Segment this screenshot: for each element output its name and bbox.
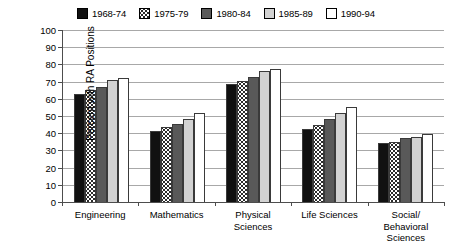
y-tick-label: 0 xyxy=(0,198,56,208)
bar xyxy=(74,94,85,202)
legend-entry-1990-94: 1990-94 xyxy=(326,8,375,19)
legend-swatch-icon xyxy=(201,8,212,19)
legend-label: 1968-74 xyxy=(92,8,126,19)
bar xyxy=(378,143,389,202)
bar xyxy=(107,80,118,202)
y-tick-mark xyxy=(58,168,62,169)
x-tick-mark xyxy=(215,202,216,206)
bar xyxy=(248,77,259,202)
y-tick-label: 90 xyxy=(0,43,56,53)
x-axis-tick-marks xyxy=(62,202,444,206)
legend-entry-1985-89: 1985-89 xyxy=(264,8,313,19)
bar xyxy=(194,113,205,202)
legend-entry-1975-79: 1975-79 xyxy=(139,8,188,19)
bar xyxy=(161,127,172,202)
x-tick-mark xyxy=(368,202,369,206)
bar xyxy=(422,134,433,202)
legend-label: 1980-84 xyxy=(216,8,250,19)
bar-group xyxy=(63,30,139,202)
bar-group xyxy=(215,30,291,202)
legend-label: 1990-94 xyxy=(341,8,375,19)
y-tick-label: 70 xyxy=(0,78,56,88)
legend-entry-1980-84: 1980-84 xyxy=(201,8,250,19)
x-axis-label: Engineering xyxy=(62,209,138,244)
bar xyxy=(172,124,183,202)
bar xyxy=(411,137,422,202)
y-tick-label: 20 xyxy=(0,164,56,174)
x-tick-mark xyxy=(291,202,292,206)
x-axis-label: Social/ Behavioral Sciences xyxy=(368,209,444,244)
y-tick-label: 40 xyxy=(0,129,56,139)
x-axis-label: Physical Sciences xyxy=(215,209,291,244)
bar xyxy=(313,125,324,202)
legend-swatch-icon xyxy=(139,8,150,19)
y-tick-label: 30 xyxy=(0,146,56,156)
bar-group xyxy=(368,30,444,202)
y-tick-mark xyxy=(58,116,62,117)
bar-group xyxy=(292,30,368,202)
bar xyxy=(270,69,281,202)
x-axis-label: Mathematics xyxy=(138,209,214,244)
legend-swatch-icon xyxy=(326,8,337,19)
plot-area xyxy=(62,30,444,202)
y-tick-label: 100 xyxy=(0,26,56,36)
bar xyxy=(150,131,161,202)
bar-groups xyxy=(63,30,444,202)
y-tick-mark xyxy=(58,64,62,65)
legend-label: 1975-79 xyxy=(154,8,188,19)
x-tick-mark xyxy=(444,202,445,206)
bar xyxy=(400,138,411,202)
y-tick-label: 80 xyxy=(0,60,56,70)
x-axis-label: Life Sciences xyxy=(291,209,367,244)
y-tick-mark xyxy=(58,30,62,31)
y-tick-mark xyxy=(58,185,62,186)
x-tick-mark xyxy=(62,202,63,206)
bar xyxy=(259,71,270,202)
bar-group xyxy=(139,30,215,202)
y-tick-mark xyxy=(58,150,62,151)
bar xyxy=(335,113,346,202)
y-tick-mark xyxy=(58,133,62,134)
bar xyxy=(346,107,357,202)
y-tick-mark xyxy=(58,99,62,100)
y-tick-label: 50 xyxy=(0,112,56,122)
bar xyxy=(389,142,400,202)
x-tick-mark xyxy=(138,202,139,206)
bar xyxy=(324,119,335,202)
legend-swatch-icon xyxy=(264,8,275,19)
bar-chart: 1968-741975-791980-841985-891990-94 Perc… xyxy=(0,0,452,252)
y-axis-title: Percent with RA Positions xyxy=(85,0,96,169)
legend-label: 1985-89 xyxy=(279,8,313,19)
y-tick-label: 10 xyxy=(0,181,56,191)
bar xyxy=(183,119,194,202)
chart-legend: 1968-741975-791980-841985-891990-94 xyxy=(0,8,452,19)
x-axis-labels: EngineeringMathematicsPhysical SciencesL… xyxy=(62,209,444,244)
plot-wrapper: Percent with RA Positions 10090807060504… xyxy=(62,30,444,202)
bar xyxy=(237,81,248,202)
bar xyxy=(118,78,129,202)
bar xyxy=(226,84,237,202)
y-tick-mark xyxy=(58,47,62,48)
y-tick-mark xyxy=(58,82,62,83)
bar xyxy=(96,87,107,202)
bar xyxy=(302,129,313,202)
y-tick-label: 60 xyxy=(0,95,56,105)
